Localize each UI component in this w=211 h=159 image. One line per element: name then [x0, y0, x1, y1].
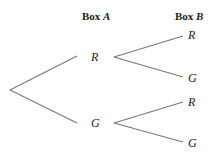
branch-root-to-a-g	[10, 90, 77, 123]
node-box-b-r-after-g: R	[188, 96, 195, 108]
branch-a-r-to-b-g	[114, 57, 183, 77]
node-box-b-g-after-r: G	[188, 72, 197, 84]
branch-a-r-to-b-r	[114, 36, 183, 57]
branch-root-to-a-r	[10, 56, 77, 90]
node-box-b-g-after-g: G	[188, 137, 197, 149]
node-box-a-r: R	[91, 51, 98, 63]
branch-a-g-to-b-g	[114, 123, 183, 142]
branch-a-g-to-b-r	[114, 102, 183, 123]
node-box-a-g: G	[91, 117, 100, 129]
tree-branches	[0, 0, 211, 159]
node-box-b-r-after-r: R	[188, 29, 195, 41]
